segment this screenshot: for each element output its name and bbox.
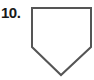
pentagon-figure bbox=[0, 0, 94, 80]
pentagon-outline bbox=[32, 8, 91, 75]
